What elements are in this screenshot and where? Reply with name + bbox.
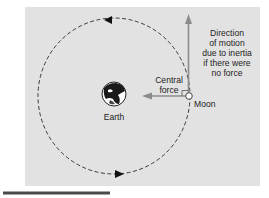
earth bbox=[102, 82, 126, 106]
central-force-label-line2: force bbox=[159, 85, 178, 95]
inertia-label-line2: of motion bbox=[209, 38, 245, 48]
orbit-diagram: Earth Moon Central force Direction of mo… bbox=[0, 0, 269, 198]
inertia-label-line5: no force bbox=[211, 68, 242, 78]
inertia-label-line1: Direction bbox=[210, 28, 244, 38]
moon-label: Moon bbox=[194, 99, 216, 109]
bottom-rule bbox=[3, 192, 110, 195]
inertia-label-line3: due to inertia bbox=[202, 48, 252, 58]
central-force-label-line1: Central bbox=[155, 75, 183, 85]
inertia-label-line4: if there were bbox=[203, 58, 251, 68]
earth-label: Earth bbox=[104, 112, 125, 122]
moon bbox=[186, 93, 193, 100]
